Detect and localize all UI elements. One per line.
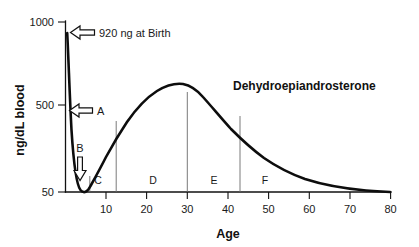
arrow-left-icon-a <box>70 104 93 117</box>
x-tick-label-20: 20 <box>140 203 152 215</box>
chart-plot-area: 1000 500 50 10 20 30 40 50 60 70 80 Age … <box>0 0 419 247</box>
x-axis-title: Age <box>216 227 240 241</box>
annotation-label-b: B <box>76 142 83 154</box>
y-tick-label-500: 500 <box>36 99 54 111</box>
annotation-a-group: A <box>70 104 106 117</box>
x-tick-label-40: 40 <box>222 203 234 215</box>
region-label-f: F <box>262 174 268 186</box>
dhea-curve <box>67 33 390 192</box>
region-label-d: D <box>149 174 157 186</box>
arrow-left-icon-birth <box>71 26 95 39</box>
x-tick-label-70: 70 <box>344 203 356 215</box>
annotation-label-a: A <box>97 105 105 117</box>
region-label-e: E <box>210 174 217 186</box>
x-tick-label-30: 30 <box>181 203 193 215</box>
x-tick-label-10: 10 <box>100 203 112 215</box>
x-tick-label-60: 60 <box>303 203 315 215</box>
x-tick-label-50: 50 <box>262 203 274 215</box>
x-tick-label-80: 80 <box>384 203 396 215</box>
birth-annotation-label: 920 ng at Birth <box>99 27 171 39</box>
y-axis-title: ng/dL blood <box>13 84 27 155</box>
y-tick-label-1000: 1000 <box>30 16 54 28</box>
birth-annotation-group: 920 ng at Birth <box>71 26 171 39</box>
y-tick-label-50: 50 <box>42 186 54 198</box>
series-title: Dehydroepiandrosterone <box>233 79 376 93</box>
chart-figure: 1000 500 50 10 20 30 40 50 60 70 80 Age … <box>0 0 419 247</box>
